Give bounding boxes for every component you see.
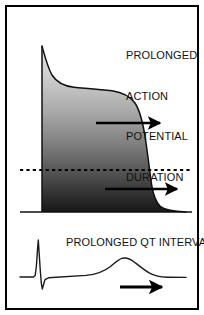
ap-label-line-2: ACTION [126, 90, 198, 104]
qt-interval-label: PROLONGED QT INTERVAL [66, 236, 204, 248]
figure-root: PROLONGED ACTION POTENTIAL DURATION PROL… [0, 0, 204, 315]
ap-label-line-3: POTENTIAL [126, 130, 198, 144]
ap-label-line-4: DURATION [126, 171, 198, 185]
ap-label-line-1: PROLONGED [126, 49, 198, 63]
action-potential-label: PROLONGED ACTION POTENTIAL DURATION [126, 22, 198, 211]
